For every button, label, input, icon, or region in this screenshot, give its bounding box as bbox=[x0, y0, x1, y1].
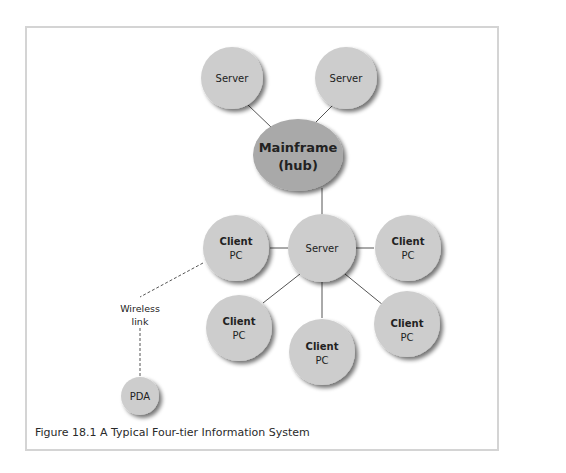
client-right-label-line2: PC bbox=[401, 250, 414, 261]
client-bottom-mid-label-line1: Client bbox=[306, 341, 339, 352]
client-bottom-right-label-line1: Client bbox=[391, 318, 424, 329]
edge-server-client-bottom-right bbox=[345, 274, 383, 305]
wireless-edges bbox=[140, 263, 203, 377]
server-top-right-label: Server bbox=[330, 73, 364, 84]
server-mid-label: Server bbox=[306, 243, 340, 254]
pda-label: PDA bbox=[130, 391, 151, 402]
mainframe-hub-node bbox=[253, 119, 343, 191]
wireless-link-label-line1: Wireless bbox=[120, 303, 160, 314]
client-pc-node-bottom-mid bbox=[289, 319, 355, 385]
server-top-left-label: Server bbox=[216, 73, 250, 84]
client-left-label-line1: Client bbox=[220, 236, 253, 247]
wireless-link-label-line2: link bbox=[132, 316, 149, 327]
network-diagram: Server Server Mainframe (hub) Client PC … bbox=[0, 0, 566, 473]
client-pc-node-left bbox=[203, 215, 269, 281]
edge-server-left-mainframe bbox=[248, 105, 272, 128]
client-pc-node-right bbox=[375, 215, 441, 281]
client-bottom-left-label-line2: PC bbox=[232, 330, 245, 341]
edge-mainframe-server-mid-stub bbox=[298, 190, 322, 214]
client-bottom-mid-label-line2: PC bbox=[315, 355, 328, 366]
figure-caption: Figure 18.1 A Typical Four-tier Informat… bbox=[35, 426, 310, 439]
client-pc-node-bottom-left bbox=[206, 295, 272, 361]
edge-server-client-bottom-left bbox=[263, 274, 300, 303]
client-left-label-line2: PC bbox=[229, 250, 242, 261]
client-bottom-left-label-line1: Client bbox=[223, 316, 256, 327]
mainframe-label-line2: (hub) bbox=[278, 158, 318, 173]
client-bottom-right-label-line2: PC bbox=[400, 332, 413, 343]
wireless-edge-upper bbox=[140, 263, 203, 297]
client-right-label-line1: Client bbox=[392, 236, 425, 247]
mainframe-label-line1: Mainframe bbox=[259, 140, 338, 155]
